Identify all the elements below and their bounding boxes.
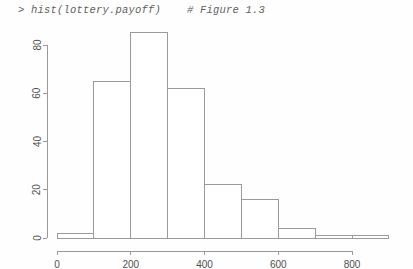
- histogram-figure: 0204060800200400600800: [0, 24, 413, 269]
- histogram-bar: [57, 233, 94, 238]
- x-axis-tick-label: 0: [54, 259, 60, 269]
- histogram-bar: [315, 236, 352, 238]
- x-axis-tick-label: 800: [344, 259, 361, 269]
- histogram-bar: [131, 33, 168, 238]
- histogram-bar: [352, 236, 389, 238]
- console-prompt: >: [18, 4, 25, 16]
- histogram-bar: [94, 81, 131, 238]
- histogram-bar: [241, 199, 278, 238]
- histogram-bar: [168, 88, 205, 238]
- histogram-svg: 0204060800200400600800: [0, 24, 413, 269]
- x-axis-tick-label: 400: [196, 259, 213, 269]
- console-command-text: hist(lottery.payoff): [31, 4, 161, 16]
- x-axis-tick-label: 600: [270, 259, 287, 269]
- console-comment-text: # Figure 1.3: [187, 4, 265, 16]
- histogram-bar: [205, 185, 242, 238]
- y-axis-tick-label: 40: [32, 136, 43, 148]
- plot-area: 0204060800200400600800: [0, 24, 413, 269]
- console-command-line: > hist(lottery.payoff) # Figure 1.3: [18, 4, 265, 16]
- x-axis-tick-label: 200: [122, 259, 139, 269]
- y-axis-tick-label: 80: [32, 39, 43, 51]
- y-axis-tick-label: 60: [32, 87, 43, 99]
- y-axis-tick-label: 0: [32, 235, 43, 241]
- y-axis-tick-label: 20: [32, 184, 43, 196]
- histogram-bar: [278, 228, 315, 238]
